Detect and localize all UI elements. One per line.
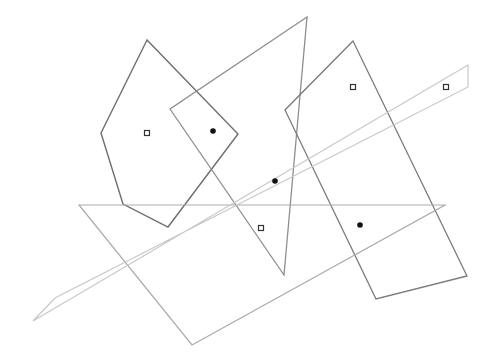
shapes-diagram (0, 0, 498, 360)
square-marker-icon (259, 226, 264, 231)
dot-marker-icon (357, 222, 363, 228)
square-marker-icon (444, 85, 449, 90)
square-marker-icon (351, 85, 356, 90)
square-marker-icon (145, 131, 150, 136)
diagram-canvas (0, 0, 498, 360)
rectangle-shape (285, 41, 467, 299)
dot-marker-icon (272, 178, 278, 184)
triangle-shape (170, 17, 307, 275)
strip-shape (33, 65, 468, 321)
dot-marker-icon (210, 128, 216, 134)
hexagon-shape (101, 40, 238, 227)
